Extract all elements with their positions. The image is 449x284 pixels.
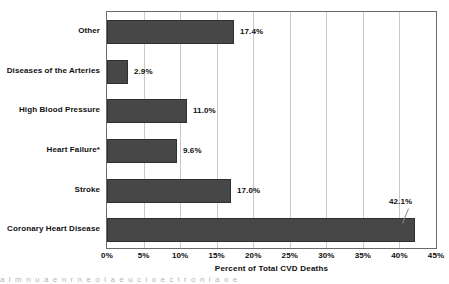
category-axis-labels: OtherDiseases of the ArteriesHigh Blood … (0, 11, 100, 249)
x-tick-label: 5% (138, 251, 150, 260)
bar-value-label: 2.9% (134, 60, 153, 84)
bar-value-label: 17.0% (237, 179, 260, 203)
category-label: Heart Failure* (0, 145, 100, 155)
x-axis-title: Percent of Total CVD Deaths (106, 264, 437, 273)
gridline (290, 12, 291, 248)
bar (107, 99, 187, 123)
bar (107, 60, 128, 84)
gridline (144, 12, 145, 248)
x-tick-label: 10% (172, 251, 188, 260)
gridline (399, 12, 400, 248)
category-label: Other (0, 26, 100, 36)
x-tick-label: 45% (428, 251, 444, 260)
category-label: Diseases of the Arteries (0, 66, 100, 76)
bar (107, 139, 177, 163)
gridline (217, 12, 218, 248)
x-tick-label: 35% (355, 251, 371, 260)
x-tick-label: 15% (209, 251, 225, 260)
category-label: Stroke (0, 185, 100, 195)
x-tick-label: 40% (391, 251, 407, 260)
bar-value-label: 17.4% (240, 20, 263, 44)
plot-area: 17.4%2.9%11.0%9.6%17.0%42.1% (106, 11, 437, 249)
bar-row: 2.9% (107, 60, 436, 84)
bar-row: 17.0% (107, 179, 436, 203)
x-axis-tick-labels: 0%5%10%15%20%25%30%35%40%45% (106, 251, 437, 263)
gridline (253, 12, 254, 248)
x-tick-label: 20% (245, 251, 261, 260)
scan-artifact-text: a l m n u a e n r n e o l a e u c i o e … (0, 276, 449, 284)
bar-value-label: 9.6% (183, 139, 202, 163)
x-tick-label: 0% (101, 251, 113, 260)
bar (107, 20, 234, 44)
bar-value-label: 11.0% (193, 99, 216, 123)
category-label: Coronary Heart Disease (0, 224, 100, 234)
gridline (180, 12, 181, 248)
bar (107, 179, 231, 203)
x-tick-label: 25% (282, 251, 298, 260)
gridline (363, 12, 364, 248)
bar-row: 9.6% (107, 139, 436, 163)
bar-row: 11.0% (107, 99, 436, 123)
category-label: High Blood Pressure (0, 105, 100, 115)
bar (107, 218, 415, 242)
bar-row: 42.1% (107, 218, 436, 242)
bar-row: 17.4% (107, 20, 436, 44)
x-tick-label: 30% (318, 251, 334, 260)
bar-value-label: 42.1% (389, 196, 412, 208)
cvd-deaths-bar-chart: OtherDiseases of the ArteriesHigh Blood … (0, 0, 449, 284)
gridline (326, 12, 327, 248)
